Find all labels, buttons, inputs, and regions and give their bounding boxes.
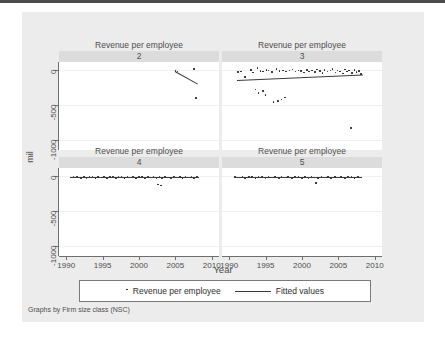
legend-item-fit[interactable]: Fitted values <box>235 286 324 296</box>
panel-subtitle: 4 <box>59 157 219 168</box>
data-point <box>358 70 360 72</box>
legend-label-points: Revenue per employee <box>133 286 221 296</box>
data-point <box>311 70 313 72</box>
data-point <box>346 71 348 73</box>
panel-title: Revenue per employee <box>59 146 219 157</box>
data-point <box>284 97 286 99</box>
y-tick-label: -500 <box>49 210 58 234</box>
x-tick <box>302 257 303 260</box>
data-point <box>285 71 287 73</box>
y-axis-title: mil <box>25 137 35 177</box>
facet-panel-5: Revenue per employee5 <box>222 146 382 234</box>
legend-label-fit: Fitted values <box>276 286 324 296</box>
data-point <box>350 127 352 129</box>
chart-legend[interactable]: Revenue per employee Fitted values <box>79 280 371 302</box>
fitted-line <box>174 71 197 84</box>
data-point <box>277 100 279 102</box>
data-point <box>281 99 283 101</box>
y-tick-label: 0 <box>49 176 58 200</box>
facet-panel-2: Revenue per employee2 <box>59 40 219 128</box>
gridline <box>59 211 219 212</box>
data-point <box>327 71 329 73</box>
panel-title: Revenue per employee <box>222 146 382 157</box>
data-point <box>262 71 264 73</box>
graph-note: Graphs by Firm size class (NSC) <box>28 306 130 313</box>
plot-area <box>222 168 382 256</box>
x-tick <box>338 257 339 260</box>
fitted-line <box>237 74 363 81</box>
data-point <box>195 97 197 99</box>
data-point <box>335 72 337 74</box>
gridline <box>59 70 219 71</box>
gridline <box>59 140 219 141</box>
legend-item-points[interactable]: Revenue per employee <box>126 286 221 296</box>
data-point <box>262 90 264 92</box>
y-axis-line <box>58 62 59 150</box>
line-marker-icon <box>235 291 271 292</box>
data-point <box>258 92 260 94</box>
panel-title: Revenue per employee <box>59 40 219 51</box>
data-point <box>240 71 242 73</box>
x-tick <box>266 257 267 260</box>
x-tick <box>229 257 230 260</box>
plot-area <box>59 62 219 150</box>
data-point <box>255 89 257 91</box>
panel-subtitle: 3 <box>222 51 382 62</box>
data-point <box>295 71 297 73</box>
data-point <box>354 69 356 71</box>
plot-area <box>59 168 219 256</box>
data-point <box>273 101 275 103</box>
gridline <box>59 246 219 247</box>
data-point <box>265 94 267 96</box>
data-point <box>157 184 159 186</box>
data-point <box>237 71 239 73</box>
y-tick-label: -500 <box>49 104 58 128</box>
fitted-line <box>70 177 199 178</box>
x-tick <box>103 257 104 260</box>
x-tick <box>212 257 213 260</box>
x-tick <box>375 257 376 260</box>
gridline <box>59 105 219 106</box>
facet-panel-4: Revenue per employee4 <box>59 146 219 234</box>
point-marker-icon <box>126 289 128 291</box>
gridline <box>222 211 382 212</box>
gridline <box>222 140 382 141</box>
data-point <box>279 70 281 72</box>
x-axis-title: Year <box>22 264 424 275</box>
data-point <box>250 69 252 71</box>
graph-canvas: mil Revenue per employee20-500-1000Reven… <box>22 12 424 322</box>
panel-title: Revenue per employee <box>222 40 382 51</box>
data-point <box>314 71 316 73</box>
data-point <box>308 71 310 73</box>
window-top-bar <box>0 0 445 3</box>
x-tick <box>175 257 176 260</box>
facet-panel-3: Revenue per employee3 <box>222 40 382 128</box>
gridline <box>222 246 382 247</box>
panel-subtitle: 5 <box>222 157 382 168</box>
data-point <box>319 70 321 72</box>
data-point <box>244 76 246 78</box>
y-axis-line <box>58 168 59 256</box>
data-point <box>193 68 195 70</box>
data-point <box>303 72 305 74</box>
data-point <box>315 182 317 184</box>
data-point <box>266 69 268 71</box>
gridline <box>222 105 382 106</box>
data-point <box>271 71 273 73</box>
data-point <box>252 72 254 74</box>
data-point <box>339 71 341 73</box>
panel-subtitle: 2 <box>59 51 219 62</box>
plot-area <box>222 62 382 150</box>
data-point <box>322 72 324 74</box>
data-point <box>342 73 344 75</box>
data-point <box>300 70 302 72</box>
y-tick-label: 0 <box>49 70 58 94</box>
data-point <box>351 72 353 74</box>
fitted-line <box>235 177 362 178</box>
y-tick-label: -1000 <box>49 139 58 163</box>
data-point <box>257 67 259 69</box>
data-point <box>160 185 162 187</box>
x-tick <box>139 257 140 260</box>
data-point <box>282 70 284 72</box>
x-tick <box>66 257 67 260</box>
